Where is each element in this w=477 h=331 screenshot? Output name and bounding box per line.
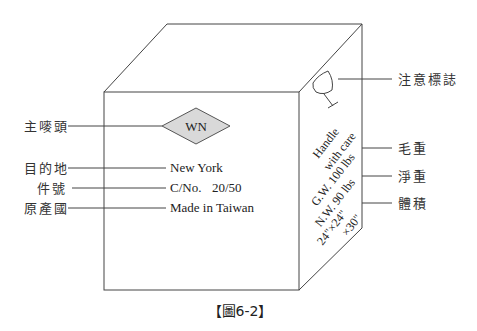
label-caution-mark: 注意標誌: [398, 72, 458, 87]
top-face: [104, 24, 362, 92]
label-case-number: 件號: [37, 181, 67, 196]
label-measurement: 體積: [398, 196, 428, 211]
figure-caption: 【圖6-2】: [208, 303, 273, 319]
label-main-mark: 主嘜頭: [24, 119, 69, 134]
case-no-value: 20/50: [212, 180, 242, 195]
origin-text: Made in Taiwan: [170, 200, 255, 215]
destination-text: New York: [170, 160, 223, 175]
label-origin: 原產國: [24, 201, 69, 216]
label-net-weight: 淨重: [398, 169, 428, 184]
label-gross-weight: 毛重: [398, 141, 428, 156]
label-destination: 目的地: [24, 161, 69, 176]
case-no-label: C/No.: [170, 180, 201, 195]
carton-mark-diagram: WN New York C/No. 20/50 Made in Taiwan 主…: [0, 0, 477, 331]
main-mark-text: WN: [185, 119, 207, 134]
main-mark-diamond: WN: [162, 108, 230, 144]
fragile-glass-icon: [313, 71, 338, 108]
